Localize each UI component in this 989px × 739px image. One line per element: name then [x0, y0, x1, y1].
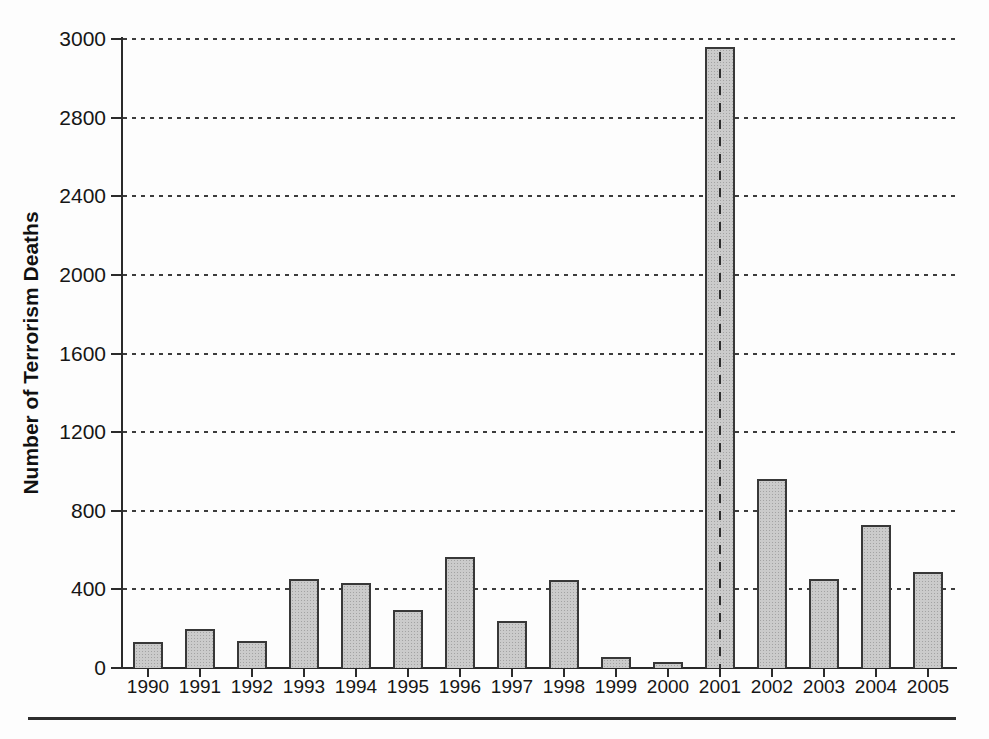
y-tick-label-1600: 1600	[18, 343, 106, 365]
x-tick-label-2004: 2004	[848, 676, 904, 697]
gridline-3000	[123, 38, 955, 40]
bar-1993	[289, 579, 319, 668]
gridline-1600	[123, 353, 955, 355]
y-tick-800	[111, 510, 122, 512]
y-tick-2000	[111, 274, 122, 276]
y-tick-1600	[111, 353, 122, 355]
figure-bottom-rule	[28, 717, 956, 720]
x-tick-label-2002: 2002	[744, 676, 800, 697]
bar-1991	[185, 629, 215, 668]
gridline-2400	[123, 195, 955, 197]
x-tick-label-1996: 1996	[432, 676, 488, 697]
y-tick-2800	[111, 117, 122, 119]
x-tick-label-1995: 1995	[380, 676, 436, 697]
bar-2001	[705, 47, 735, 668]
bar-1992	[237, 641, 267, 668]
bar-2005	[913, 572, 943, 668]
x-tick-label-2003: 2003	[796, 676, 852, 697]
x-tick-label-1997: 1997	[484, 676, 540, 697]
x-tick-label-2000: 2000	[640, 676, 696, 697]
x-tick-label-1999: 1999	[588, 676, 644, 697]
gridline-2000	[123, 274, 955, 276]
y-tick-label-400: 400	[18, 578, 106, 600]
bar-1995	[393, 610, 423, 668]
gridline-800	[123, 510, 955, 512]
gridline-1200	[123, 431, 955, 433]
bar-1990	[133, 642, 163, 668]
bar-1997	[497, 621, 527, 668]
bar-2002	[757, 479, 787, 668]
bar-2000	[653, 662, 683, 668]
bar-1994	[341, 583, 371, 668]
highlight-dashed-line-2001	[719, 52, 721, 668]
y-tick-2400	[111, 195, 122, 197]
y-tick-label-2400: 2400	[18, 185, 106, 207]
bar-1996	[445, 557, 475, 668]
y-tick-label-3000: 3000	[18, 28, 106, 50]
y-tick-label-2800: 2800	[18, 107, 106, 129]
y-tick-1200	[111, 431, 122, 433]
bar-1998	[549, 580, 579, 668]
y-tick-label-800: 800	[18, 500, 106, 522]
y-tick-3000	[111, 38, 122, 40]
x-tick-label-1990: 1990	[120, 676, 176, 697]
gridline-2800	[123, 117, 955, 119]
x-tick-label-1992: 1992	[224, 676, 280, 697]
y-tick-label-0: 0	[18, 657, 106, 679]
terrorism-deaths-bar-chart: Number of Terrorism Deaths 0400800120016…	[0, 0, 989, 739]
bar-2003	[809, 579, 839, 668]
bar-1999	[601, 657, 631, 668]
x-tick-label-1991: 1991	[172, 676, 228, 697]
x-tick-label-1994: 1994	[328, 676, 384, 697]
y-tick-400	[111, 588, 122, 590]
y-tick-0	[111, 667, 122, 669]
x-tick-label-1998: 1998	[536, 676, 592, 697]
x-tick-label-1993: 1993	[276, 676, 332, 697]
bar-2004	[861, 525, 891, 668]
y-tick-label-1200: 1200	[18, 421, 106, 443]
x-tick-label-2001: 2001	[692, 676, 748, 697]
y-tick-label-2000: 2000	[18, 264, 106, 286]
x-tick-label-2005: 2005	[900, 676, 956, 697]
